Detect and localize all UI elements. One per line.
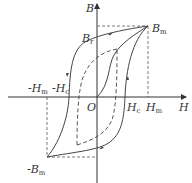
- hm-label: Hm: [145, 101, 163, 115]
- bm-label: Bm: [151, 22, 167, 36]
- hc-label: Hc: [126, 101, 141, 115]
- br-label: Br: [81, 32, 94, 46]
- h-axis-label: H: [178, 101, 189, 114]
- neg-bm-label: -Bm: [27, 163, 46, 177]
- origin-label: O: [87, 101, 96, 114]
- b-axis-label: B: [85, 2, 94, 15]
- neg-hc-label: -Hc: [52, 82, 69, 96]
- hysteresis-diagram: B H O Br Bm -Bm Hc Hm -Hm -Hc: [0, 0, 192, 183]
- neg-hm-label: -Hm: [28, 82, 48, 96]
